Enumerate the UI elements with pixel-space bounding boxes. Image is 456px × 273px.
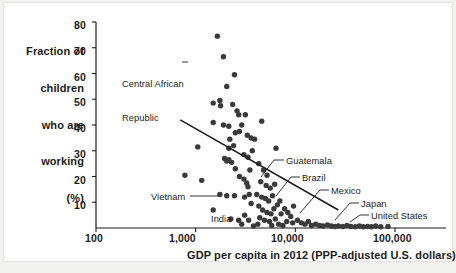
y-axis-title-line-1: Fraction of xyxy=(10,45,84,57)
data-point xyxy=(336,223,341,228)
data-point xyxy=(268,185,273,190)
data-point xyxy=(221,122,226,127)
leader-united-states xyxy=(350,215,369,222)
data-point xyxy=(248,201,253,206)
y-tick-label-80: 80 xyxy=(74,20,86,32)
data-point xyxy=(199,178,204,183)
data-points xyxy=(182,33,390,229)
label-india: India xyxy=(211,214,231,224)
data-point xyxy=(268,211,273,216)
data-point xyxy=(230,102,235,107)
y-tick-label-70: 70 xyxy=(74,46,86,58)
data-point xyxy=(233,166,238,171)
data-point xyxy=(278,211,283,216)
data-point xyxy=(259,118,264,123)
label-car-line-1: Central African xyxy=(122,79,184,90)
data-point xyxy=(224,193,229,198)
data-point xyxy=(378,224,383,229)
data-point xyxy=(288,214,293,219)
data-point-central-african-republic xyxy=(221,54,226,59)
data-point xyxy=(224,84,229,89)
data-point xyxy=(262,218,267,223)
data-point xyxy=(227,136,232,141)
data-point xyxy=(232,72,237,77)
data-point xyxy=(247,192,252,197)
y-axis-title: Fraction of children who are working (%) xyxy=(10,20,84,229)
leader-japan xyxy=(335,203,359,220)
data-point xyxy=(273,216,278,221)
y-axis-title-line-5: (%) xyxy=(10,192,84,204)
label-car-line-2: Republic xyxy=(122,113,184,124)
y-axis-title-line-3: who are xyxy=(10,119,84,131)
y-tick-label-10: 10 xyxy=(74,200,86,212)
data-point xyxy=(211,100,216,105)
x-tick-label-1000: 1,000 xyxy=(169,233,196,245)
data-point xyxy=(280,223,285,228)
label-united-states: United States xyxy=(371,211,427,221)
data-point xyxy=(226,124,231,129)
y-tick-label-50: 50 xyxy=(74,97,86,109)
x-tick-label-10000: 10,000 xyxy=(271,233,304,245)
label-central-african-republic: Central African Republic xyxy=(122,56,184,147)
x-tick-label-100000: 100,000 xyxy=(373,233,412,245)
data-point xyxy=(242,212,247,217)
data-point xyxy=(211,207,216,212)
data-point xyxy=(373,223,378,228)
data-point xyxy=(247,167,252,172)
y-tick-label-30: 30 xyxy=(74,149,86,161)
label-brazil: Brazil xyxy=(302,173,326,183)
label-mexico: Mexico xyxy=(331,186,361,196)
data-point xyxy=(273,145,278,150)
data-point-guatemala xyxy=(270,193,275,198)
data-point xyxy=(266,198,271,203)
y-axis-title-line-2: children xyxy=(10,82,84,94)
data-point xyxy=(239,122,244,127)
y-tick-label-40: 40 xyxy=(74,123,86,135)
data-point xyxy=(229,160,234,165)
data-point xyxy=(252,136,257,141)
data-point xyxy=(256,203,261,208)
data-point xyxy=(277,198,282,203)
label-leader-lines xyxy=(182,62,369,222)
data-point xyxy=(242,194,247,199)
label-guatemala: Guatemala xyxy=(286,156,332,166)
data-point xyxy=(257,215,262,220)
data-point xyxy=(254,192,259,197)
data-point xyxy=(258,179,263,184)
data-point-vietnam xyxy=(232,193,237,198)
label-vietnam: Vietnam xyxy=(151,192,185,202)
data-point xyxy=(243,112,248,117)
data-point xyxy=(269,223,274,228)
data-point xyxy=(237,129,242,134)
data-point-united-states xyxy=(385,224,390,229)
label-japan: Japan xyxy=(361,199,387,209)
data-point xyxy=(250,148,255,153)
data-point xyxy=(245,184,250,189)
x-tick-label-100: 100 xyxy=(85,233,103,245)
data-point xyxy=(290,220,295,225)
data-point xyxy=(246,218,251,223)
data-point xyxy=(284,219,289,224)
data-point xyxy=(239,221,244,226)
figure-page: Fraction of children who are working (%)… xyxy=(0,0,456,273)
data-point xyxy=(217,98,222,103)
data-point xyxy=(211,120,216,125)
data-point xyxy=(215,33,220,38)
x-axis-title: GDP per capita in 2012 (PPP-adjusted U.S… xyxy=(187,249,456,261)
y-axis-title-line-4: working xyxy=(10,155,84,167)
data-point xyxy=(195,144,200,149)
y-tick-label-60: 60 xyxy=(74,72,86,84)
data-point xyxy=(231,143,236,148)
data-point xyxy=(264,173,269,178)
data-point xyxy=(236,112,241,117)
data-point-brazil xyxy=(291,203,296,208)
data-point xyxy=(272,182,277,187)
y-tick-label-20: 20 xyxy=(74,175,86,187)
data-point xyxy=(255,221,260,226)
data-point xyxy=(218,103,223,108)
data-point xyxy=(182,173,187,178)
